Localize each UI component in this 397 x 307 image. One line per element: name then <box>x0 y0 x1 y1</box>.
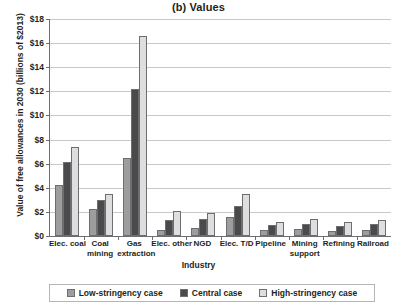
bar <box>336 226 344 236</box>
bar <box>344 222 352 236</box>
bar-group <box>323 19 357 236</box>
bar <box>97 200 105 236</box>
bar-group <box>221 19 255 236</box>
bar <box>260 230 268 236</box>
bar <box>173 211 181 236</box>
x-tick-label: Elec. coal <box>49 239 83 249</box>
x-tick-label: Railroad <box>356 239 390 249</box>
chart-legend: Low-stringency caseCentral caseHigh-stri… <box>49 284 375 302</box>
x-tick-label: Gasextraction <box>117 239 151 259</box>
legend-label: Central case <box>192 288 243 298</box>
legend-item[interactable]: Central case <box>180 288 243 298</box>
y-tick-mark <box>46 236 50 237</box>
bar <box>302 224 310 236</box>
legend-item[interactable]: High-stringency case <box>259 288 357 298</box>
x-tick-label: Elec. T/D <box>220 239 254 249</box>
bar <box>378 220 386 236</box>
bar <box>105 194 113 236</box>
legend-item[interactable]: Low-stringency case <box>67 288 163 298</box>
bar-group <box>357 19 391 236</box>
bar-group <box>289 19 323 236</box>
bar <box>294 229 302 236</box>
legend-label: High-stringency case <box>271 288 357 298</box>
bar-group <box>255 19 289 236</box>
plot-area: $0$2$4$6$8$10$12$14$16$18 <box>49 19 391 237</box>
y-tick-label: $4 <box>35 183 44 193</box>
x-tick-label: Pipeline <box>254 239 288 249</box>
y-tick-label: $18 <box>30 14 44 24</box>
y-axis-title: Value of free allowances in 2030 (billio… <box>15 0 25 230</box>
legend-swatch-icon <box>67 289 75 297</box>
bar <box>370 224 378 236</box>
x-tick-label: NGD <box>185 239 219 249</box>
bar-group <box>50 19 84 236</box>
bar <box>165 220 173 236</box>
bar-chart: (b) Values Value of free allowances in 2… <box>0 0 397 307</box>
bar <box>89 209 97 236</box>
legend-swatch-icon <box>180 289 188 297</box>
legend-swatch-icon <box>259 289 267 297</box>
bar <box>268 225 276 236</box>
bar <box>139 36 147 236</box>
x-tick-label: Miningsupport <box>288 239 322 259</box>
bar <box>71 147 79 236</box>
y-tick-label: $6 <box>35 159 44 169</box>
bar <box>63 162 71 236</box>
x-tick-label: Elec. other <box>151 239 185 249</box>
bar <box>226 217 234 236</box>
bar-group <box>118 19 152 236</box>
x-axis-title: Industry <box>0 260 397 270</box>
legend-label: Low-stringency case <box>79 288 163 298</box>
y-tick-label: $10 <box>30 110 44 120</box>
bar-group <box>186 19 220 236</box>
bar <box>207 213 215 236</box>
bar <box>310 219 318 236</box>
bar <box>276 222 284 236</box>
y-tick-label: $0 <box>35 231 44 241</box>
bar <box>234 206 242 236</box>
bar <box>199 219 207 236</box>
y-tick-label: $12 <box>30 86 44 96</box>
bar <box>157 230 165 236</box>
bar <box>123 158 131 236</box>
bar-group <box>84 19 118 236</box>
bar <box>362 230 370 236</box>
bar <box>242 194 250 236</box>
bar <box>131 89 139 236</box>
y-tick-label: $16 <box>30 38 44 48</box>
y-tick-label: $8 <box>35 135 44 145</box>
bar-group <box>152 19 186 236</box>
bar <box>328 231 336 236</box>
chart-title: (b) Values <box>0 1 397 13</box>
bar <box>191 228 199 236</box>
bar <box>55 185 63 236</box>
x-tick-label: Refining <box>322 239 356 249</box>
y-tick-label: $14 <box>30 62 44 72</box>
y-tick-label: $2 <box>35 207 44 217</box>
x-tick-label: Coalmining <box>83 239 117 259</box>
